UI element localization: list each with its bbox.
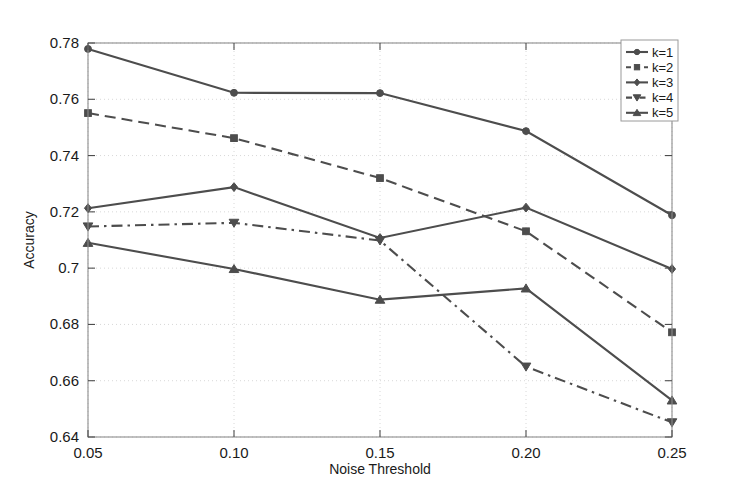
legend-label: k=1 [652,45,673,60]
x-tick-label: 0.05 [73,444,102,461]
data-point [521,363,531,371]
y-tick-labels: 0.640.660.680.70.720.740.760.78 [50,34,79,445]
legend: k=1k=2k=3k=4k=5 [621,40,678,121]
y-tick-label: 0.78 [50,34,79,51]
data-point [231,135,238,142]
y-tick-label: 0.7 [58,259,79,276]
chart-page: 0.050.100.150.200.25 0.640.660.680.70.72… [0,0,731,485]
y-tick-label: 0.66 [50,372,79,389]
legend-marker-circle-icon [634,49,639,54]
y-tick-label: 0.74 [50,147,79,164]
series-line [88,49,672,215]
x-axis-title: Noise Threshold [329,461,431,477]
x-tick-label: 0.20 [511,444,540,461]
data-point [523,228,530,235]
y-axis-title: Accuracy [21,211,37,269]
data-point [523,128,530,135]
legend-label: k=3 [652,75,673,90]
legend-label: k=2 [652,60,673,75]
x-tick-label: 0.10 [219,444,248,461]
series-line [88,243,672,401]
data-point [377,175,384,182]
legend-marker-square-icon [634,65,639,70]
series-layer [83,45,677,426]
data-point [522,203,529,212]
data-point [377,90,384,97]
y-tick-label: 0.72 [50,203,79,220]
legend-label: k=5 [652,105,673,120]
legend-label: k=4 [652,90,673,105]
x-tick-label: 0.25 [657,444,686,461]
y-tick-label: 0.68 [50,315,79,332]
series-line [88,223,672,423]
accuracy-vs-noise-threshold-chart: 0.050.100.150.200.25 0.640.660.680.70.72… [0,0,731,485]
data-point [230,183,237,192]
data-point [231,89,238,96]
y-tick-label: 0.76 [50,90,79,107]
x-tick-label: 0.15 [365,444,394,461]
x-tick-labels: 0.050.100.150.200.25 [73,444,686,461]
y-tick-label: 0.64 [50,428,79,445]
